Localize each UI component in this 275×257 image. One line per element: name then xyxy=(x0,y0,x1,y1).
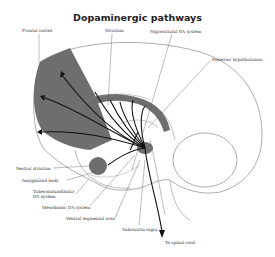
spinal-cord-arrow-icon xyxy=(159,230,165,238)
label-nigrostriatal: Nigrostriatal DA system xyxy=(150,29,201,34)
label-substantia-nigra: Substantia nigra xyxy=(122,227,157,232)
label-frontal-cortex: Frontal cortex xyxy=(22,28,52,33)
brain-diagram xyxy=(0,0,275,257)
label-spinal-cord: To spinal cord xyxy=(165,240,195,245)
label-posterior-hypothalamus: Posterior hypothalamus xyxy=(212,57,262,62)
cerebellum xyxy=(173,133,237,187)
label-tuberoinfundibular-2: DA system xyxy=(33,194,56,199)
label-striatum: Striatum xyxy=(105,28,124,33)
label-amygdaloid-body: Amygdaloid body xyxy=(22,178,59,183)
label-mesolimbic: Mesolimbic DA system xyxy=(42,205,90,210)
label-ventral-tegmental: Ventral tegmental area xyxy=(66,216,115,221)
ventral-striatum-region xyxy=(89,157,107,175)
label-ventral-striatum: Ventral striatum xyxy=(16,166,51,171)
